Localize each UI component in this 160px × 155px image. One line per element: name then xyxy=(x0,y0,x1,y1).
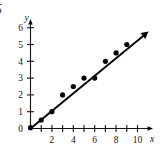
x-tick-label-4: 4 xyxy=(71,135,76,145)
y-tick-label-0: 0 xyxy=(18,124,23,134)
data-point xyxy=(124,42,129,47)
x-axis-arrow-icon xyxy=(148,126,153,130)
y-tick-label-1: 1 xyxy=(18,107,23,117)
data-point xyxy=(71,84,76,89)
data-point xyxy=(60,92,65,97)
y-tick-label-2: 2 xyxy=(18,90,23,100)
x-tick-label-2: 2 xyxy=(50,135,55,145)
scatter-plot-chart: 0 1 2 3 4 5 6 2 4 6 8 10 y x xyxy=(0,0,160,155)
data-point xyxy=(114,50,119,55)
trend-line xyxy=(31,35,145,129)
x-tick-label-6: 6 xyxy=(92,135,97,145)
data-point xyxy=(103,59,108,64)
y-tick-label-5: 5 xyxy=(18,40,23,50)
data-point xyxy=(81,76,86,81)
data-point xyxy=(49,109,54,114)
data-point xyxy=(92,76,97,81)
data-point xyxy=(28,125,33,130)
trend-line-group xyxy=(31,32,148,128)
y-axis-tick-labels: 0 1 2 3 4 5 6 xyxy=(18,23,23,134)
y-tick-label-3: 3 xyxy=(18,73,23,83)
figure-container: 5 xyxy=(0,0,160,155)
y-axis-arrow-icon xyxy=(28,19,32,24)
x-axis-label: x xyxy=(149,134,155,144)
data-point xyxy=(39,118,44,123)
x-tick-label-10: 10 xyxy=(133,135,143,145)
y-axis-label: y xyxy=(24,13,30,23)
x-tick-label-8: 8 xyxy=(114,135,119,145)
y-tick-label-6: 6 xyxy=(18,23,23,33)
x-axis-group xyxy=(31,126,154,130)
y-tick-label-4: 4 xyxy=(18,57,23,67)
x-axis-tick-labels: 2 4 6 8 10 xyxy=(50,135,143,145)
